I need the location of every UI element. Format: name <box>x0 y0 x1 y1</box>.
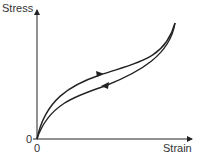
unloading-curve <box>37 23 175 139</box>
y-axis-label: Stress <box>2 3 33 14</box>
x-origin-label: 0 <box>34 143 40 154</box>
loading-curve <box>37 23 175 139</box>
x-axis-label: Strain <box>163 143 192 154</box>
loading-arrow-icon <box>96 71 103 77</box>
unloading-arrow-icon <box>101 82 109 89</box>
y-origin-label: 0 <box>26 134 32 145</box>
